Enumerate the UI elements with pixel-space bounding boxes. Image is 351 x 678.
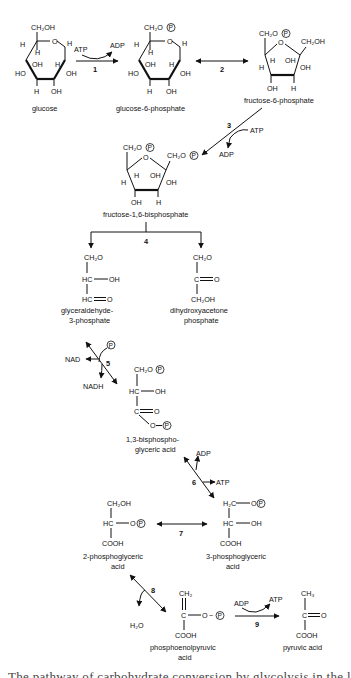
svg-text:CH₂O: CH₂O: [134, 365, 153, 374]
svg-text:ADP: ADP: [196, 449, 211, 458]
svg-text:OH: OH: [267, 84, 278, 93]
svg-text:CH₂O: CH₂O: [193, 253, 212, 262]
svg-text:P: P: [158, 366, 163, 373]
svg-text:NADH: NADH: [83, 382, 103, 391]
pyruvic-acid-structure: CH₃ C O COOH: [296, 589, 327, 640]
step-2-arrow: 2: [196, 61, 248, 74]
svg-text:CH₂: CH₂: [179, 589, 192, 598]
svg-text:C: C: [134, 407, 139, 416]
svg-text:OH: OH: [180, 69, 191, 78]
svg-text:HC: HC: [82, 295, 92, 304]
step-6-arrow: ADP ATP 6: [184, 449, 230, 498]
svg-text:CH₂O: CH₂O: [123, 143, 142, 152]
svg-text:P: P: [109, 342, 114, 349]
phosphoenolpyruvic-acid-label-1: phosphoenolpyruvic: [150, 643, 216, 652]
pyruvic-acid-label: pyruvic acid: [283, 643, 322, 652]
svg-text:OH: OH: [155, 387, 166, 396]
svg-text:O: O: [202, 611, 208, 620]
svg-text:1: 1: [93, 65, 97, 74]
svg-text:P: P: [259, 500, 264, 507]
svg-text:HC: HC: [223, 519, 233, 528]
svg-text:H: H: [147, 87, 152, 96]
svg-text:ADP: ADP: [219, 150, 234, 159]
glyceraldehyde-3-phosphate-label-1: glyceraldehyde-: [61, 306, 114, 315]
svg-text:COOH: COOH: [175, 631, 197, 640]
svg-text:ADP: ADP: [110, 41, 125, 50]
3-phosphoglyceric-acid-label-1: 3-phosphoglyceric: [206, 552, 266, 561]
svg-text:P: P: [192, 152, 197, 159]
svg-text:C: C: [302, 611, 307, 620]
svg-text:H: H: [134, 171, 139, 180]
svg-text:P: P: [139, 520, 144, 527]
svg-text:O: O: [130, 519, 136, 528]
svg-text:9: 9: [255, 620, 259, 629]
glucose-label: glucose: [32, 104, 57, 113]
svg-text:OH: OH: [166, 87, 177, 96]
svg-text:ATP: ATP: [216, 478, 230, 487]
svg-text:P: P: [165, 422, 170, 429]
svg-text:HO: HO: [15, 69, 26, 78]
glucose-6-phosphate-label: glucose-6-phosphate: [116, 104, 185, 113]
svg-text:5: 5: [106, 359, 110, 368]
step-5-arrow: P NAD NADH 5: [65, 341, 117, 391]
svg-text:H: H: [34, 87, 39, 96]
svg-text:H: H: [35, 48, 40, 57]
2-phosphoglyceric-acid-label-1: 2-phosphoglyceric: [83, 552, 143, 561]
3-phosphoglyceric-acid-label-2: acid: [226, 562, 240, 571]
svg-text:CH₂O: CH₂O: [167, 151, 186, 160]
svg-text:CH₂O: CH₂O: [84, 253, 103, 262]
svg-text:ATP: ATP: [250, 126, 264, 135]
svg-text:OH: OH: [32, 60, 43, 69]
svg-text:2: 2: [220, 65, 224, 74]
figure-caption-partial: The pathway of carbohydrate conversion b…: [0, 670, 351, 678]
svg-text:O: O: [143, 153, 149, 162]
dihydroxyacetone-phosphate-structure: CH₂O C O CH₂OH: [191, 253, 220, 304]
fructose-6-phosphate-label: fructose-6-phosphate: [244, 96, 314, 105]
svg-text:7: 7: [179, 529, 183, 538]
svg-text:NAD: NAD: [65, 355, 80, 364]
step-4-split-arrow: 4: [91, 222, 201, 248]
svg-text:H₂C: H₂C: [223, 499, 236, 508]
svg-text:OH: OH: [166, 178, 177, 187]
svg-text:OH: OH: [251, 519, 262, 528]
step-3-arrow: 3 ATP ADP: [202, 108, 264, 159]
svg-text:O: O: [154, 407, 160, 416]
fructose-1-6-bisphosphate-label: fructose-1,6-bisphosphate: [103, 210, 188, 219]
caption-text: The pathway of carbohydrate conversion b…: [0, 670, 351, 678]
svg-text:H: H: [67, 39, 72, 48]
dihydroxyacetone-phosphate-label-2: phosphate: [184, 316, 219, 325]
svg-text:H: H: [20, 40, 25, 49]
step-7-arrow: 7: [157, 524, 207, 538]
fructose-6-phosphate-structure: CH₂O P O CH₂OH H H OH OH OH H: [259, 29, 325, 93]
svg-text:P: P: [148, 144, 153, 151]
svg-text:H: H: [121, 178, 126, 187]
svg-text:H: H: [148, 48, 153, 57]
svg-text:H: H: [169, 60, 174, 69]
svg-text:OH: OH: [285, 56, 296, 65]
svg-text:CH₂OH: CH₂OH: [31, 23, 55, 32]
svg-text:HC: HC: [103, 519, 113, 528]
svg-text:COOH: COOH: [296, 631, 318, 640]
svg-text:HC: HC: [129, 387, 139, 396]
svg-text:CH₂OH: CH₂OH: [107, 499, 131, 508]
svg-text:3: 3: [227, 121, 231, 130]
svg-text:P: P: [218, 612, 223, 619]
svg-text:HO: HO: [128, 69, 139, 78]
svg-text:COOH: COOH: [220, 539, 242, 548]
1-3-bisphosphoglyceric-acid-label-1: 1,3-bisphospho-: [126, 435, 180, 444]
svg-text:CH₂O: CH₂O: [259, 29, 278, 38]
glyceraldehyde-3-phosphate-structure: CH₂O HC OH HC O: [82, 253, 120, 304]
svg-text:O: O: [321, 611, 327, 620]
step-9-arrow: ADP ATP 9: [234, 595, 283, 629]
svg-text:O: O: [251, 499, 257, 508]
svg-text:HC: HC: [82, 275, 92, 284]
svg-text:O: O: [278, 38, 284, 47]
svg-text:OH: OH: [131, 198, 142, 207]
svg-text:4: 4: [144, 237, 149, 246]
svg-text:8: 8: [151, 586, 155, 595]
glucose-6-phosphate-structure: CH₂O P O H H H OH HO H OH H OH: [128, 23, 191, 96]
svg-text:C: C: [181, 611, 186, 620]
svg-text:H: H: [156, 198, 161, 207]
svg-text:CH₂O: CH₂O: [144, 23, 163, 32]
svg-text:H: H: [270, 56, 275, 65]
